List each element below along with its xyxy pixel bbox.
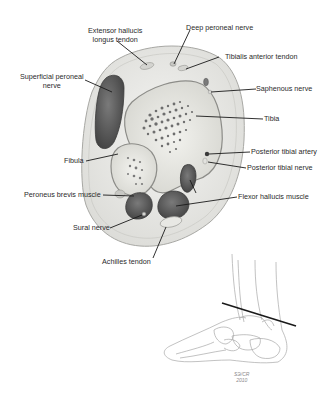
label-sural-nerve: Sural nerve: [73, 224, 110, 233]
label-peroneus-brevis-muscle: Peroneus brevis muscle: [24, 191, 101, 200]
label-superficial-peroneal-line2: nerve: [20, 82, 84, 91]
foot-sketch: [164, 254, 287, 363]
label-superficial-peroneal-nerve: Superficial peroneal nerve: [20, 73, 84, 90]
label-posterior-tibial-artery: Posterior tibial artery: [251, 148, 317, 157]
label-fibula: Fibula: [64, 157, 84, 166]
diagram-canvas: Extensor hallucis longus tendon Deep per…: [0, 0, 334, 401]
label-deep-peroneal-nerve: Deep peroneal nerve: [186, 24, 253, 33]
label-tibialis-anterior-tendon: Tibialis anterior tendon: [225, 53, 297, 62]
label-tibia: Tibia: [264, 115, 279, 124]
artist-signature: SЭ/CR 2010: [234, 372, 249, 383]
peroneus-longus-tendon: [115, 190, 125, 198]
fibula-bone: [111, 144, 157, 196]
signature-line2: 2010: [234, 378, 249, 384]
label-saphenous-nerve: Saphenous nerve: [256, 85, 312, 94]
saphenous-vein-shape: [204, 78, 209, 86]
label-flexor-hallucis-muscle: Flexor hallucis muscle: [238, 193, 309, 202]
posterior-tibial-artery-shape: [205, 152, 209, 156]
label-extensor-hallucis-line2: longus tendon: [88, 36, 142, 45]
label-extensor-hallucis-longus: Extensor hallucis longus tendon: [88, 27, 142, 44]
sural-nerve-shape: [142, 212, 146, 216]
peroneus-brevis-muscle: [126, 193, 153, 219]
label-achilles-tendon: Achilles tendon: [102, 258, 151, 267]
label-posterior-tibial-nerve: Posterior tibial nerve: [247, 164, 313, 173]
posterior-tibial-nerve-shape: [203, 158, 207, 164]
